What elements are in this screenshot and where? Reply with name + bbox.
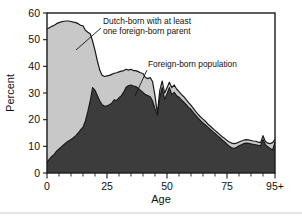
x-axis-tick-label: 50 (161, 180, 173, 192)
x-axis-tick-label: 75 (221, 180, 233, 192)
y-axis-title: Percent (4, 74, 16, 112)
upper-series-annotation-line1: Dutch-born with at least (103, 16, 192, 26)
x-axis-tick-label: 0 (44, 180, 50, 192)
x-axis-title: Age (151, 193, 171, 205)
y-axis-tick-label: 30 (28, 87, 40, 99)
x-axis-tick-label: 95+ (266, 180, 284, 192)
lower-series-annotation-label: Foreign-born population (148, 59, 237, 69)
y-axis-tick-label: 40 (28, 60, 40, 72)
y-axis-tick-label: 20 (28, 113, 40, 125)
y-axis-tick-label: 10 (28, 140, 40, 152)
area-chart: 0102030405060 025507595+ Percent Age Dut… (0, 0, 302, 218)
y-axis-tick-label: 50 (28, 33, 40, 45)
upper-series-annotation-line2: one foreign-born parent (103, 26, 191, 36)
chart-figure: 0102030405060 025507595+ Percent Age Dut… (0, 0, 302, 218)
y-axis-tick-label: 0 (34, 167, 40, 179)
x-axis-tick-label: 25 (101, 180, 113, 192)
y-axis-tick-label: 60 (28, 7, 40, 19)
